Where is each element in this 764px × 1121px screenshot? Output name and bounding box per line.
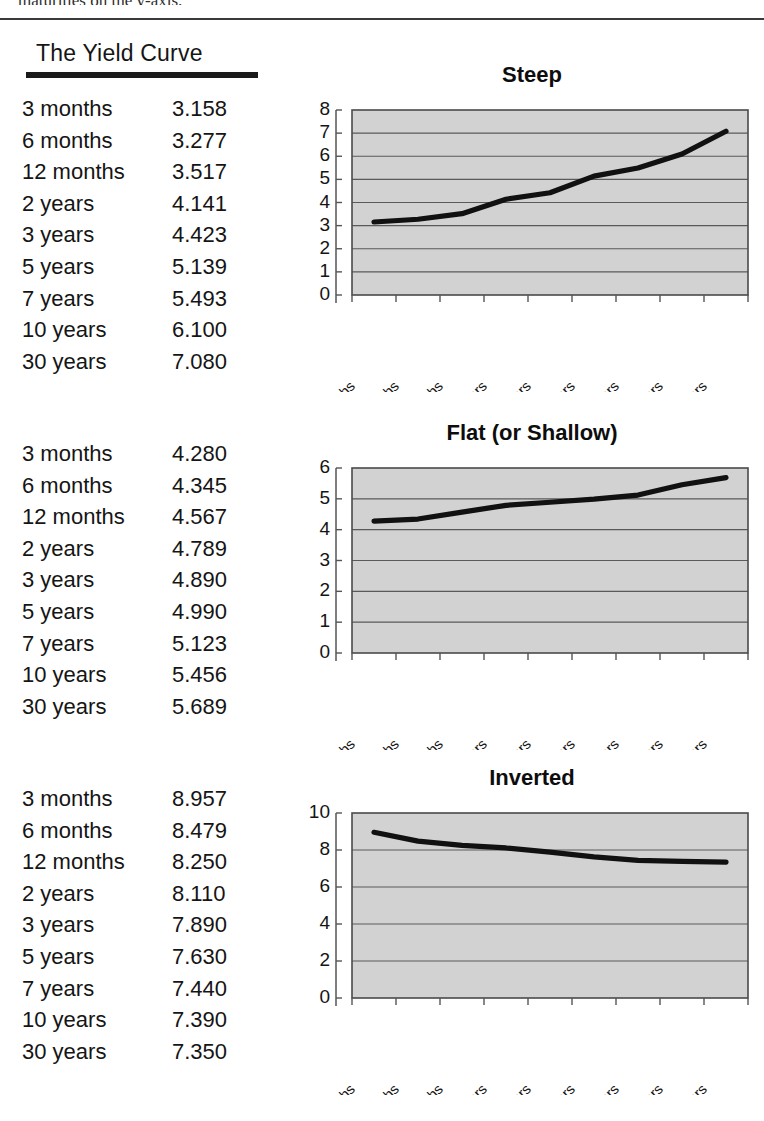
header-rule: [0, 18, 764, 20]
maturity-label: 3 months: [22, 441, 172, 467]
yield-value: 4.890: [172, 567, 282, 593]
yield-value: 5.456: [172, 662, 282, 688]
x-axis-tick-label: 5 years: [533, 378, 578, 392]
table-row: 3 months4.280: [22, 441, 287, 473]
yield-value: 4.345: [172, 473, 282, 499]
yield-value: 5.139: [172, 254, 282, 280]
x-axis-tick-label: 7 years: [577, 378, 622, 392]
x-axis-tick-label: 5 years: [533, 1081, 578, 1095]
yield-table-inverted: 3 months8.9576 months8.47912 months8.250…: [22, 786, 287, 1070]
yield-value: 4.423: [172, 222, 282, 248]
x-axis-tick-label: 2 years: [445, 378, 490, 392]
x-axis-tick-label: 2 years: [445, 736, 490, 750]
x-axis-tick-label: 3 years: [489, 736, 534, 750]
table-row: 5 years7.630: [22, 944, 287, 976]
table-row: 3 months8.957: [22, 786, 287, 818]
yield-value: 4.567: [172, 504, 282, 530]
x-axis-tick-label: 30 years: [659, 1081, 710, 1095]
x-axis-tick-label: 3 years: [489, 1081, 534, 1095]
yield-value: 8.250: [172, 849, 282, 875]
maturity-label: 30 years: [22, 349, 172, 375]
maturity-label: 3 years: [22, 912, 172, 938]
yield-value: 5.493: [172, 286, 282, 312]
x-axis-tick-label: 7 years: [577, 1081, 622, 1095]
maturity-label: 2 years: [22, 191, 172, 217]
x-axis-tick-label: 3 months: [305, 1081, 358, 1095]
maturity-label: 12 months: [22, 159, 172, 185]
yield-value: 7.890: [172, 912, 282, 938]
table-row: 5 years5.139: [22, 254, 287, 286]
x-axis-tick-label: 30 years: [659, 378, 710, 392]
chart-title: Inverted: [300, 765, 764, 791]
x-axis-tick-label: 2 years: [445, 1081, 490, 1095]
x-axis-tick-label: 30 years: [659, 736, 710, 750]
yield-value: 8.479: [172, 818, 282, 844]
y-axis-tick-label: 5: [319, 487, 330, 508]
table-row: 3 months3.158: [22, 96, 287, 128]
chart-canvas: 10864203 months6 months12 months2 years3…: [300, 765, 764, 1095]
y-axis-tick-label: 5: [319, 167, 330, 188]
yield-table-steep: 3 months3.1586 months3.27712 months3.517…: [22, 96, 287, 380]
maturity-label: 7 years: [22, 976, 172, 1002]
table-row: 7 years5.493: [22, 286, 287, 318]
maturity-label: 2 years: [22, 536, 172, 562]
x-axis-tick-label: 5 years: [533, 736, 578, 750]
table-row: 7 years7.440: [22, 976, 287, 1008]
maturity-label: 12 months: [22, 849, 172, 875]
table-row: 6 months8.479: [22, 818, 287, 850]
chart-canvas: 8765432103 months6 months12 months2 year…: [300, 62, 764, 392]
y-axis-tick-label: 0: [319, 641, 330, 662]
x-axis-tick-label: 10 years: [615, 378, 666, 392]
maturity-label: 7 years: [22, 286, 172, 312]
maturity-label: 3 months: [22, 786, 172, 812]
yield-value: 5.123: [172, 631, 282, 657]
maturity-label: 12 months: [22, 504, 172, 530]
chart-title: Steep: [300, 62, 764, 88]
table-row: 12 months4.567: [22, 504, 287, 536]
chart-canvas: 65432103 months6 months12 months2 years3…: [300, 420, 764, 750]
maturity-label: 3 years: [22, 222, 172, 248]
yield-value: 4.141: [172, 191, 282, 217]
y-axis-tick-label: 4: [319, 518, 330, 539]
x-axis-tick-label: 10 years: [615, 1081, 666, 1095]
y-axis-tick-label: 7: [319, 121, 330, 142]
table-row: 7 years5.123: [22, 631, 287, 663]
yield-value: 6.100: [172, 317, 282, 343]
yield-value: 8.110: [172, 881, 282, 907]
maturity-label: 6 months: [22, 473, 172, 499]
maturity-label: 7 years: [22, 631, 172, 657]
yield-value: 4.990: [172, 599, 282, 625]
y-axis-tick-label: 1: [319, 260, 330, 281]
yield-value: 7.630: [172, 944, 282, 970]
y-axis-tick-label: 2: [319, 237, 330, 258]
chart-steep: 8765432103 months6 months12 months2 year…: [300, 62, 764, 392]
yield-value: 5.689: [172, 694, 282, 720]
yield-value: 8.957: [172, 786, 282, 812]
x-axis-tick-label: 10 years: [615, 736, 666, 750]
y-axis-tick-label: 2: [319, 579, 330, 600]
maturity-label: 6 months: [22, 818, 172, 844]
yield-value: 7.080: [172, 349, 282, 375]
yield-value: 7.440: [172, 976, 282, 1002]
title-underline-bar: [26, 72, 258, 78]
table-row: 12 months8.250: [22, 849, 287, 881]
maturity-label: 10 years: [22, 317, 172, 343]
y-axis-tick-label: 1: [319, 610, 330, 631]
table-row: 3 years4.423: [22, 222, 287, 254]
chart-inverted: 10864203 months6 months12 months2 years3…: [300, 765, 764, 1095]
x-axis-tick-label: 3 months: [305, 736, 358, 750]
x-axis-tick-label: 3 years: [489, 378, 534, 392]
table-row: 12 months3.517: [22, 159, 287, 191]
maturity-label: 10 years: [22, 1007, 172, 1033]
yield-value: 4.789: [172, 536, 282, 562]
yield-value: 7.350: [172, 1039, 282, 1065]
maturity-label: 2 years: [22, 881, 172, 907]
table-row: 6 months4.345: [22, 473, 287, 505]
y-axis-tick-label: 6: [319, 144, 330, 165]
table-row: 6 months3.277: [22, 128, 287, 160]
table-row: 5 years4.990: [22, 599, 287, 631]
maturity-label: 10 years: [22, 662, 172, 688]
table-row: 2 years8.110: [22, 881, 287, 913]
page-title: The Yield Curve: [36, 40, 203, 67]
table-row: 30 years7.080: [22, 349, 287, 381]
